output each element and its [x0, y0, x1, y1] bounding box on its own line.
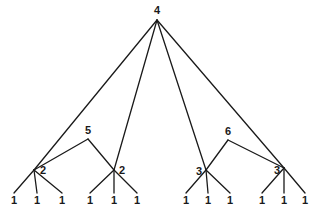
tree-edges: [14, 20, 305, 193]
leaf-label: 1: [227, 194, 233, 206]
tree-diagram: 4 5 6 2 2 3 3 1 1 1 1 1 1 1 1 1 1 1 1: [0, 0, 315, 210]
node-labels: 4 5 6 2 2 3 3 1 1 1 1 1 1 1 1 1 1 1 1: [11, 4, 308, 206]
leaf-label: 1: [34, 194, 40, 206]
node-label-c: 3: [196, 165, 202, 177]
leaf-label: 1: [205, 194, 211, 206]
leaf-label: 1: [87, 194, 93, 206]
leaf-label: 1: [302, 194, 308, 206]
tree-edge: [90, 170, 114, 193]
leaf-label: 1: [183, 194, 189, 206]
tree-edge: [34, 170, 62, 193]
node-label-m5: 5: [85, 124, 91, 136]
tree-edge: [206, 140, 228, 170]
tree-edge: [206, 170, 230, 193]
tree-edge: [14, 170, 34, 193]
leaf-label: 1: [259, 194, 265, 206]
node-label-m6: 6: [225, 125, 231, 137]
leaf-label: 1: [281, 194, 287, 206]
tree-edge: [88, 139, 114, 170]
tree-edge: [34, 170, 37, 193]
node-label-d: 3: [274, 164, 280, 176]
node-label-a: 2: [40, 164, 46, 176]
leaf-label: 1: [134, 194, 140, 206]
tree-edge: [114, 20, 157, 170]
tree-edge: [157, 20, 284, 168]
node-label-root: 4: [154, 4, 161, 16]
leaf-label: 1: [59, 194, 65, 206]
leaf-label: 1: [11, 194, 17, 206]
tree-edge: [206, 170, 208, 193]
tree-edge: [284, 168, 305, 193]
tree-edge: [157, 20, 206, 170]
node-label-b: 2: [119, 164, 125, 176]
tree-edge: [114, 170, 137, 193]
leaf-label: 1: [111, 194, 117, 206]
